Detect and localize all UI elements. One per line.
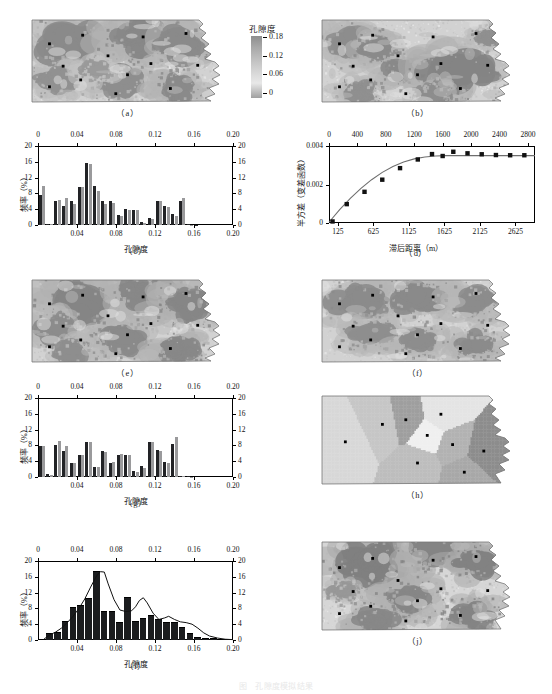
- x-tick-label-top: 800: [372, 130, 400, 139]
- x-tick-mark: [444, 223, 445, 226]
- map-panel-h: [320, 394, 515, 486]
- y-tick-mark: [35, 146, 38, 147]
- x-tick-mark: [77, 225, 78, 228]
- histogram-bar: [120, 216, 123, 225]
- x-tick-mark-top: [77, 395, 78, 398]
- x-tick-label: 0.04: [66, 644, 88, 653]
- y-axis-label: 频率（%）: [18, 173, 29, 212]
- x-tick-label-top: 2000: [457, 130, 485, 139]
- histogram-bar: [151, 442, 154, 477]
- histogram-bar: [132, 621, 139, 640]
- x-tick-label-top: 0.20: [222, 130, 244, 139]
- y-tick-mark: [233, 162, 236, 163]
- histogram-bar: [112, 203, 115, 225]
- x-tick-label-top: 0.04: [66, 545, 88, 554]
- panel-caption-g: （g）: [8, 496, 263, 508]
- x-tick-label: 0.12: [144, 644, 166, 653]
- x-tick-mark-top: [386, 143, 387, 146]
- histogram-bar: [62, 621, 69, 640]
- x-tick-label: 0.20: [222, 481, 244, 490]
- histogram-bar: [194, 637, 201, 640]
- histogram-bar: [97, 191, 100, 225]
- x-tick-label: 625: [359, 227, 387, 236]
- x-tick-mark: [77, 477, 78, 480]
- y-tick-mark: [35, 608, 38, 609]
- colorbar-tick-label: 0: [269, 88, 273, 97]
- x-tick-label-top: 0.12: [144, 130, 166, 139]
- y-tick-mark: [233, 146, 236, 147]
- porosity-map-f: [320, 278, 515, 364]
- histogram-bar: [112, 462, 115, 477]
- variogram-data-point: [416, 157, 420, 161]
- histogram-bar: [46, 633, 53, 640]
- x-tick-mark: [116, 477, 117, 480]
- x-tick-mark-top: [155, 143, 156, 146]
- y-tick-label-right: 16: [238, 572, 246, 581]
- y-tick-mark: [326, 146, 329, 147]
- histogram-bar: [109, 611, 116, 640]
- x-tick-label: 2125: [466, 227, 494, 236]
- y-tick-label-right: 20: [238, 393, 246, 402]
- histogram-bar: [50, 224, 53, 225]
- x-tick-mark: [116, 640, 117, 643]
- x-tick-label: 0.20: [222, 644, 244, 653]
- histogram-bar: [167, 463, 170, 477]
- y-tick-label: 0: [8, 220, 32, 229]
- histogram-bar: [187, 633, 194, 640]
- panel-caption-f: （f）: [320, 366, 515, 378]
- x-tick-mark-top: [194, 143, 195, 146]
- colorbar-tick-label: 0.12: [269, 51, 283, 60]
- y-tick-mark: [35, 162, 38, 163]
- panel-caption-d: （d）: [285, 246, 547, 258]
- variogram-data-point: [430, 152, 434, 156]
- histogram-bar: [81, 455, 84, 477]
- y-tick-mark: [233, 430, 236, 431]
- x-tick-label-top: 0.12: [144, 545, 166, 554]
- variogram-plot: [285, 130, 547, 255]
- histogram-bar: [85, 598, 92, 640]
- x-tick-label: 0.16: [183, 229, 205, 238]
- x-tick-label: 0.16: [183, 481, 205, 490]
- histogram-bar: [104, 452, 107, 477]
- x-tick-label-top: 400: [343, 130, 371, 139]
- y-tick-mark: [35, 398, 38, 399]
- histogram-bar: [104, 204, 107, 225]
- x-tick-mark: [233, 477, 234, 480]
- histogram-bar: [128, 210, 131, 225]
- variogram-panel-d: 00.0020.00412562511251625212526250400800…: [285, 130, 547, 255]
- y-axis-label: 频率（%）: [18, 588, 29, 627]
- map-panel-b: [320, 18, 515, 104]
- x-tick-mark: [155, 640, 156, 643]
- y-axis-label: 半方差（变差函数）: [295, 155, 306, 227]
- variogram-data-point: [380, 177, 384, 181]
- variogram-data-point: [480, 152, 484, 156]
- histogram-bar: [50, 475, 53, 477]
- histogram-bar: [120, 454, 123, 477]
- panel-caption-i: （i）: [8, 659, 263, 671]
- panel-caption-j: （j）: [320, 634, 515, 646]
- y-tick-mark: [35, 593, 38, 594]
- y-tick-mark: [35, 561, 38, 562]
- histogram-bar: [73, 204, 76, 225]
- y-tick-label: 16: [8, 409, 32, 418]
- y-tick-mark: [233, 398, 236, 399]
- histogram-bar: [58, 200, 61, 225]
- variogram-data-point: [451, 150, 455, 154]
- histogram-bar: [163, 622, 170, 640]
- x-tick-label: 2625: [501, 227, 529, 236]
- porosity-map-e: [30, 278, 225, 364]
- x-tick-mark-top: [414, 143, 415, 146]
- y-tick-label: 20: [8, 393, 32, 402]
- y-tick-label: 0.004: [293, 141, 323, 150]
- x-tick-label: 0.08: [105, 229, 127, 238]
- y-tick-mark: [233, 608, 236, 609]
- variogram-data-point: [345, 202, 349, 206]
- x-tick-label-top: 0.04: [66, 382, 88, 391]
- x-tick-label-top: 0: [315, 130, 343, 139]
- y-tick-label: 20: [8, 556, 32, 565]
- x-tick-label: 0.20: [222, 229, 244, 238]
- colorbar-tick-label: 0.18: [269, 32, 283, 41]
- x-tick-label: 0.16: [183, 644, 205, 653]
- y-tick-mark: [35, 430, 38, 431]
- x-tick-label-top: 0.20: [222, 382, 244, 391]
